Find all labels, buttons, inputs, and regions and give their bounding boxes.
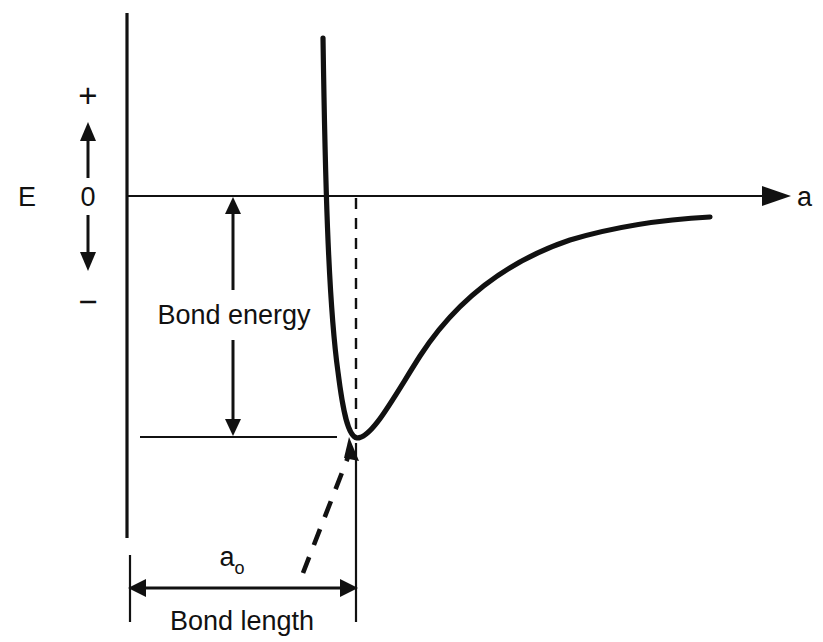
x-axis-arrowhead [762, 186, 791, 206]
positive-sign-label: + [78, 77, 97, 114]
y-axis-label: E [18, 182, 36, 212]
potential-energy-curve [323, 38, 710, 438]
energy-curve-figure: E a 0 + − Bond energy ao Bond length [0, 0, 823, 642]
zero-level-label: 0 [80, 182, 95, 212]
negative-direction-arrowhead [80, 252, 96, 271]
negative-sign-label: − [78, 283, 97, 320]
positive-direction-arrowhead [80, 122, 96, 141]
minimum-pointer-dashed-line [303, 452, 350, 573]
bond-energy-label: Bond energy [157, 300, 311, 330]
x-axis-label: a [797, 182, 813, 212]
equilibrium-separation-label: ao [219, 542, 244, 578]
bond-energy-arrow-down-head [225, 419, 241, 436]
potential-energy-diagram: E a 0 + − Bond energy ao Bond length [0, 0, 823, 642]
equilibrium-separation-subscript: o [235, 558, 245, 578]
equilibrium-separation-base: a [219, 542, 235, 572]
bond-energy-arrow-up-head [225, 197, 241, 214]
bond-length-label: Bond length [170, 606, 314, 636]
